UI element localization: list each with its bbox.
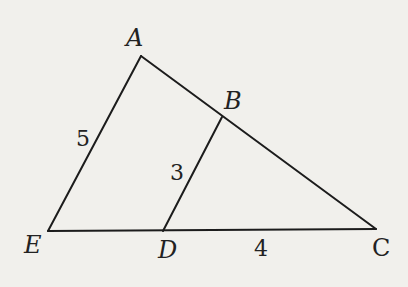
diagram-svg: A B C D E 5 3 4	[0, 0, 408, 287]
segment-AC	[141, 56, 376, 229]
length-AE: 5	[76, 126, 90, 151]
segment-AE	[48, 56, 141, 231]
length-DC: 4	[254, 236, 268, 261]
label-D: D	[157, 236, 177, 264]
label-B: B	[223, 87, 242, 115]
triangle-diagram: A B C D E 5 3 4	[0, 0, 408, 287]
length-BD: 3	[170, 160, 184, 185]
label-A: A	[124, 24, 143, 52]
label-C: C	[372, 234, 390, 262]
label-E: E	[23, 231, 42, 259]
segment-EC	[48, 229, 376, 231]
